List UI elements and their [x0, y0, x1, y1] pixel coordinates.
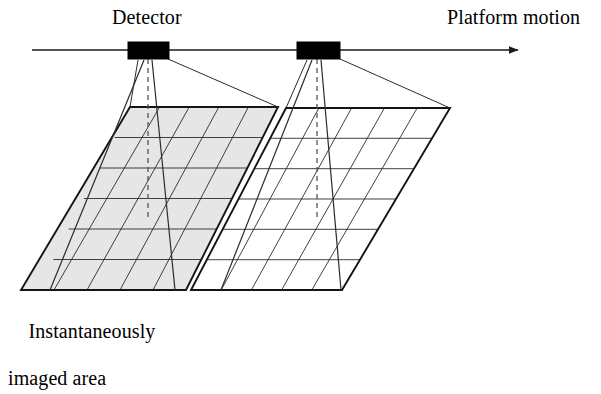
imaged-area-label: Instantaneously imaged area [8, 296, 155, 394]
imaged-area-label-line2: imaged area [8, 367, 155, 391]
imaged-area-label-line1: Instantaneously [28, 320, 155, 342]
detector-label: Detector [112, 6, 182, 30]
platform-motion-label: Platform motion [447, 6, 580, 30]
fov-left-2 [168, 59, 278, 107]
fov-left-1 [130, 60, 138, 107]
detector-box-2 [297, 42, 340, 59]
fov-right-2 [340, 59, 450, 108]
detector-box-1 [128, 42, 169, 59]
field-of-view-edges [130, 59, 450, 108]
